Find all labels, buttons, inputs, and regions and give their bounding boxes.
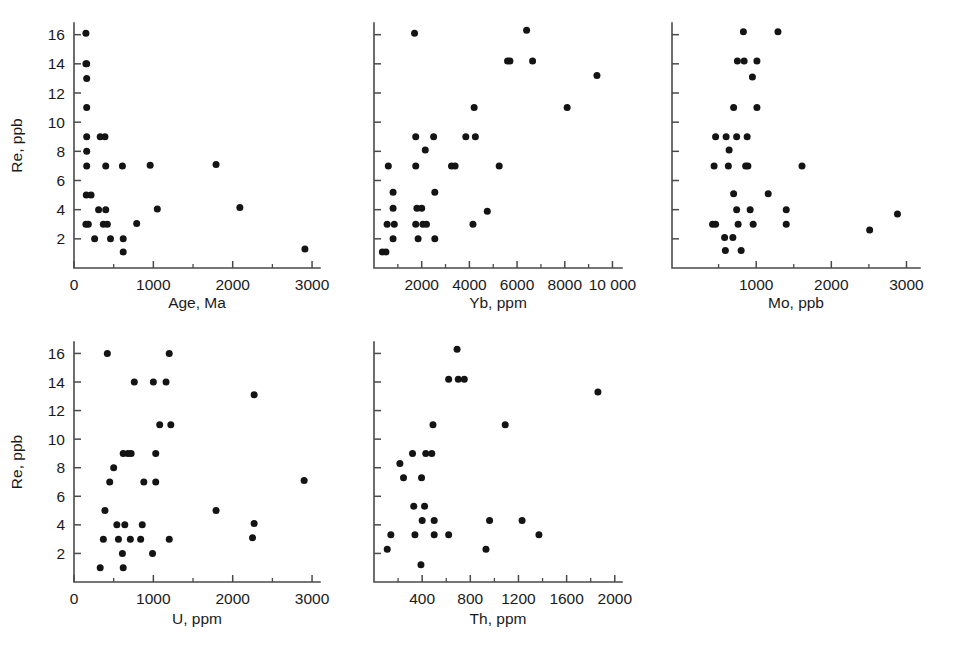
data-point	[454, 346, 461, 353]
panel-u: 0100020003000246810121416U, ppmRe, ppb	[0, 324, 330, 648]
y-tick-label: 4	[56, 516, 65, 533]
data-point	[729, 234, 736, 241]
data-point	[529, 57, 536, 64]
data-point	[594, 389, 601, 396]
data-point	[749, 73, 756, 80]
y-tick-label: 12	[48, 402, 65, 419]
data-point	[418, 474, 425, 481]
data-point	[411, 531, 418, 538]
y-tick-label: 8	[56, 143, 65, 160]
data-point	[744, 133, 751, 140]
data-point	[564, 104, 571, 111]
y-tick-label: 16	[48, 26, 65, 43]
data-point	[131, 379, 138, 386]
data-point	[753, 57, 760, 64]
y-tick-label: 2	[56, 230, 65, 247]
data-point	[733, 206, 740, 213]
data-point	[251, 391, 258, 398]
data-point	[866, 227, 873, 234]
data-point	[85, 221, 92, 228]
x-tick-label: 2000	[215, 276, 250, 293]
data-point	[735, 221, 742, 228]
data-point	[110, 464, 117, 471]
x-tick-label: 2000	[814, 276, 849, 293]
data-point	[422, 450, 429, 457]
data-point	[97, 564, 104, 571]
y-axis-label: Re, ppb	[8, 435, 25, 489]
data-point	[721, 234, 728, 241]
data-point	[799, 162, 806, 169]
x-tick-label: 400	[409, 590, 435, 607]
data-point	[101, 133, 108, 140]
data-point	[422, 146, 429, 153]
x-tick-label: 8000	[548, 276, 583, 293]
x-axis-label: U, ppm	[172, 610, 222, 627]
axis-spine	[74, 23, 320, 268]
data-point	[106, 479, 113, 486]
x-tick-label: 1000	[739, 276, 774, 293]
data-point	[139, 521, 146, 528]
data-point	[385, 162, 392, 169]
data-point	[152, 450, 159, 457]
data-point	[409, 450, 416, 457]
x-axis-label: Yb, ppm	[469, 294, 527, 311]
data-point	[535, 531, 542, 538]
x-tick-label: 1600	[549, 590, 584, 607]
data-point	[519, 517, 526, 524]
data-point	[101, 507, 108, 514]
panel-yb-svg: 200040006000800010 000Yb, ppm	[322, 0, 652, 324]
x-tick-label: 10 000	[589, 276, 637, 293]
data-point	[100, 536, 107, 543]
y-tick-label: 8	[56, 459, 65, 476]
data-point	[711, 162, 718, 169]
axis-spine	[374, 23, 622, 268]
data-point	[391, 221, 398, 228]
data-point	[733, 133, 740, 140]
data-points	[709, 28, 901, 254]
data-point	[461, 376, 468, 383]
data-point	[115, 536, 122, 543]
data-point	[783, 221, 790, 228]
data-point	[384, 221, 391, 228]
x-tick-label: 2000	[215, 590, 250, 607]
x-axis-label: Age, Ma	[168, 294, 226, 311]
data-point	[726, 146, 733, 153]
data-point	[523, 27, 530, 34]
data-point	[104, 221, 111, 228]
data-point	[496, 162, 503, 169]
x-axis-label: Th, ppm	[470, 610, 527, 627]
data-point	[419, 517, 426, 524]
data-point	[102, 206, 109, 213]
data-point	[428, 450, 435, 457]
data-point	[894, 211, 901, 218]
axis-spine	[374, 342, 622, 582]
x-tick-label: 0	[70, 276, 79, 293]
data-point	[154, 205, 161, 212]
data-point	[387, 531, 394, 538]
data-point	[213, 507, 220, 514]
x-tick-label: 1200	[501, 590, 536, 607]
data-points	[97, 350, 308, 571]
data-point	[107, 235, 114, 242]
panel-age: 0100020003000246810121416Age, MaRe, ppb	[0, 0, 330, 324]
data-point	[765, 190, 772, 197]
data-points	[384, 346, 602, 569]
data-point	[163, 379, 170, 386]
data-point	[423, 221, 430, 228]
data-point	[382, 248, 389, 255]
data-point	[430, 133, 437, 140]
data-point	[741, 57, 748, 64]
data-point	[431, 189, 438, 196]
y-tick-label: 12	[48, 85, 65, 102]
data-point	[167, 421, 174, 428]
data-point	[127, 536, 134, 543]
axis-spine	[74, 342, 320, 582]
data-point	[750, 221, 757, 228]
data-point	[83, 133, 90, 140]
data-point	[149, 550, 156, 557]
data-point	[452, 162, 459, 169]
data-point	[431, 235, 438, 242]
data-point	[744, 162, 751, 169]
panel-mo-svg: 100020003000Mo, ppb	[640, 0, 956, 324]
data-point	[502, 421, 509, 428]
